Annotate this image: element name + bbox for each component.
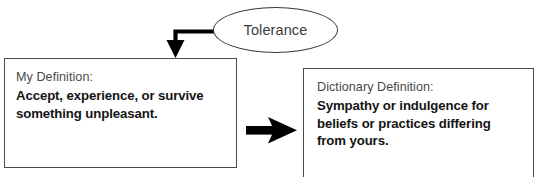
my-definition-body-line-2: something unpleasant. [16, 105, 225, 123]
my-definition-body-line-1: Accept, experience, or survive [16, 87, 225, 105]
dictionary-definition-box[interactable]: Dictionary Definition: Sympathy or indul… [303, 68, 534, 177]
diagram-canvas: Tolerance My Definition: Accept, experie… [0, 0, 540, 177]
dictionary-definition-body-line-1: Sympathy or indulgence for [317, 97, 522, 115]
dictionary-definition-body-line-2: beliefs or practices differing [317, 115, 522, 133]
dictionary-definition-heading: Dictionary Definition: [317, 79, 522, 96]
straight-connector-arrow [246, 117, 297, 144]
elbow-connector-arrow [167, 32, 215, 59]
tolerance-node-label: Tolerance [244, 22, 308, 38]
tolerance-node[interactable]: Tolerance [213, 7, 338, 53]
my-definition-heading: My Definition: [16, 69, 225, 86]
dictionary-definition-body: Sympathy or indulgence for beliefs or pr… [317, 97, 522, 150]
my-definition-box[interactable]: My Definition: Accept, experience, or su… [4, 58, 237, 168]
dictionary-definition-body-line-3: from yours. [317, 132, 522, 150]
my-definition-body: Accept, experience, or survive something… [16, 87, 225, 122]
